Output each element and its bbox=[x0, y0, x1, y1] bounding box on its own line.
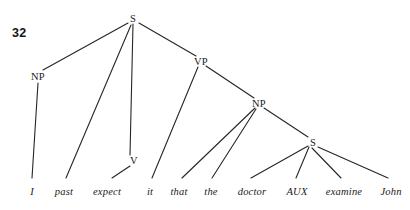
tree-node-s2: S bbox=[310, 137, 316, 148]
tree-edge-s2-l9 bbox=[312, 148, 341, 178]
tree-edge-vp-l4 bbox=[152, 67, 198, 178]
tree-edge-s1-vp bbox=[139, 23, 196, 56]
tree-edge-s2-l7 bbox=[251, 146, 308, 178]
tree-leaf-doctor: doctor bbox=[238, 186, 267, 197]
tree-leaf-john: John bbox=[380, 186, 401, 197]
tree-leaf-the: the bbox=[204, 186, 217, 197]
tree-leaf-it: it bbox=[147, 186, 153, 197]
tree-leaf-i: I bbox=[30, 186, 34, 197]
tree-edge-np2-s2 bbox=[264, 108, 308, 137]
tree-edge-s1-v bbox=[130, 24, 133, 155]
tree-leaf-past: past bbox=[55, 186, 73, 197]
syntax-tree-figure: 32 SNPVPNPVS IpastexpectitthatthedoctorA… bbox=[0, 0, 410, 210]
tree-node-s1: S bbox=[130, 13, 136, 24]
tree-edge-vp-np2 bbox=[206, 66, 254, 98]
tree-edge-v-l3 bbox=[112, 166, 130, 178]
tree-edge-np1-l1 bbox=[32, 83, 38, 178]
tree-node-v: V bbox=[130, 155, 138, 166]
tree-edge-s1-l2 bbox=[66, 25, 131, 178]
tree-leaf-aux: AUX bbox=[286, 186, 307, 197]
tree-leaf-expect: expect bbox=[93, 186, 121, 197]
tree-node-np2: NP bbox=[252, 98, 266, 109]
tree-edges-canvas bbox=[0, 0, 410, 210]
tree-leaf-that: that bbox=[170, 186, 187, 197]
tree-node-vp: VP bbox=[194, 56, 208, 67]
tree-edge-s2-l10 bbox=[318, 147, 388, 178]
tree-node-np1: NP bbox=[31, 71, 45, 82]
tree-leaf-examine: examine bbox=[326, 186, 362, 197]
